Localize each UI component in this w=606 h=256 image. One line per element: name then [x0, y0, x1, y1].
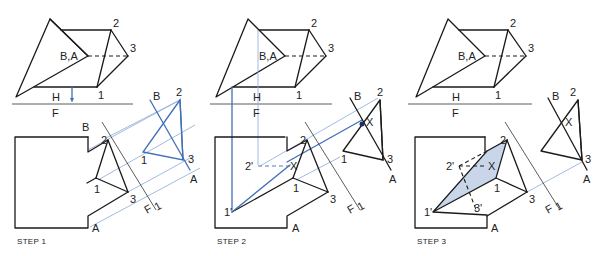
label-3: 3	[585, 153, 591, 165]
label-3: 3	[130, 42, 136, 54]
label-2: 2	[300, 134, 306, 146]
label-1: 1	[152, 199, 163, 212]
label-2: 2	[377, 86, 383, 98]
label-2: 2	[101, 134, 107, 146]
auxiliary-view: B 2 X 1 3 A	[341, 86, 397, 185]
fold-line-f1	[102, 122, 156, 210]
label-1: 1	[341, 153, 347, 165]
label-b: B	[153, 90, 160, 102]
label-f: F	[452, 107, 459, 119]
shaded-visible-region	[433, 140, 507, 212]
label-ba: B,A	[259, 50, 277, 62]
label-1: 1	[98, 89, 104, 101]
step-label: STEP 2	[217, 237, 246, 246]
panel-step-2: 2 3 B,A 1 H F 2' X 2 1 1' 3 A	[210, 17, 397, 246]
label-a: A	[491, 222, 499, 234]
label-h: H	[52, 91, 60, 103]
intersection-point	[360, 122, 365, 127]
label-x: X	[488, 160, 496, 172]
top-view: 2 3 B,A 1 H F	[408, 17, 534, 119]
label-1: 1	[293, 182, 299, 194]
label-1: 1	[94, 183, 100, 195]
auxiliary-view: B 2 1 3 A	[141, 86, 198, 185]
label-1: 1	[296, 89, 302, 101]
label-3: 3	[529, 193, 535, 205]
label-2: 2	[500, 134, 506, 146]
label-b: B	[552, 90, 559, 102]
label-h: H	[253, 91, 261, 103]
label-2-prime: 2'	[245, 160, 253, 172]
label-3: 3	[528, 42, 534, 54]
label-f: F	[52, 107, 59, 119]
label-x: X	[290, 160, 298, 172]
label-3: 3	[330, 193, 336, 205]
label-b: B	[354, 90, 361, 102]
label-x: X	[565, 116, 573, 128]
label-1: 1	[355, 199, 366, 212]
label-2: 2	[176, 86, 182, 98]
panel-step-1: 2 3 B,A 1 H F B 2 1 3 A F	[12, 17, 200, 246]
label-2: 2	[510, 17, 516, 29]
label-2: 2	[311, 17, 317, 29]
label-1-prime: 1'	[224, 206, 232, 218]
label-1-prime: 1'	[424, 206, 432, 218]
label-3-prime: 3'	[474, 202, 482, 214]
label-h: H	[452, 91, 460, 103]
label-2: 2	[570, 86, 576, 98]
label-2: 2	[113, 17, 119, 29]
top-view: 2 3 B,A 1 H F	[12, 17, 136, 119]
label-a: A	[292, 222, 300, 234]
step-label: STEP 3	[417, 237, 446, 246]
front-view: B 2 1 3 A F 1	[15, 121, 163, 234]
label-x: X	[366, 116, 374, 128]
label-1: 1	[495, 89, 501, 101]
step-label: STEP 1	[17, 237, 46, 246]
label-b: B	[82, 121, 89, 133]
label-3: 3	[328, 42, 334, 54]
arrow-icon	[70, 98, 74, 102]
label-3: 3	[387, 153, 393, 165]
panel-step-3: 2 3 B,A 1 H F 2' X 2 1 1' 3'	[408, 17, 591, 246]
label-f: F	[253, 107, 260, 119]
descriptive-geometry-figure: 2 3 B,A 1 H F B 2 1 3 A F	[0, 0, 606, 256]
label-a: A	[190, 173, 198, 185]
label-1: 1	[494, 182, 500, 194]
label-3: 3	[130, 193, 136, 205]
top-view: 2 3 B,A 1 H F	[210, 17, 334, 210]
label-1: 1	[141, 154, 147, 166]
label-a: A	[389, 173, 397, 185]
label-a: A	[583, 173, 591, 185]
label-1: 1	[553, 199, 564, 212]
auxiliary-view: B 2 X 3 A	[541, 86, 591, 185]
label-ba: B,A	[60, 50, 78, 62]
label-a: A	[92, 222, 100, 234]
label-2-prime: 2'	[446, 160, 454, 172]
label-3: 3	[188, 153, 194, 165]
label-ba: B,A	[458, 50, 476, 62]
